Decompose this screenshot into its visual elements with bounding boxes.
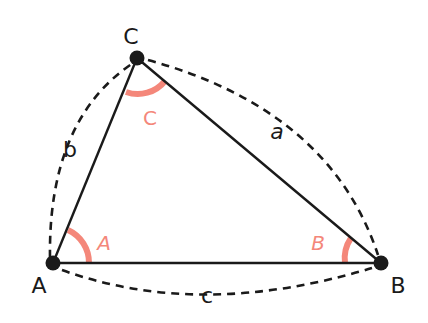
side-label-c: c xyxy=(201,283,213,308)
angle-label-c: C xyxy=(143,106,157,130)
side-label-a: a xyxy=(270,119,283,144)
angle-label-b: B xyxy=(311,231,325,255)
vertex-label-a: A xyxy=(31,273,46,298)
side-a-line xyxy=(137,58,381,263)
vertex-label-b: B xyxy=(390,273,405,298)
side-label-b: b xyxy=(63,137,77,162)
angle-label-a: A xyxy=(95,231,111,255)
vertex-c-dot xyxy=(130,51,145,66)
vertex-a-dot xyxy=(46,256,61,271)
vertex-b-dot xyxy=(374,256,389,271)
angle-c-arc xyxy=(126,81,165,94)
side-a-dashed-arc xyxy=(148,60,378,255)
triangle-diagram: C A B b a c C A B xyxy=(0,0,428,323)
side-c-dashed-arc xyxy=(62,268,372,295)
vertex-label-c: C xyxy=(123,24,138,49)
angle-a-arc xyxy=(68,230,89,263)
angle-b-arc xyxy=(345,238,351,263)
